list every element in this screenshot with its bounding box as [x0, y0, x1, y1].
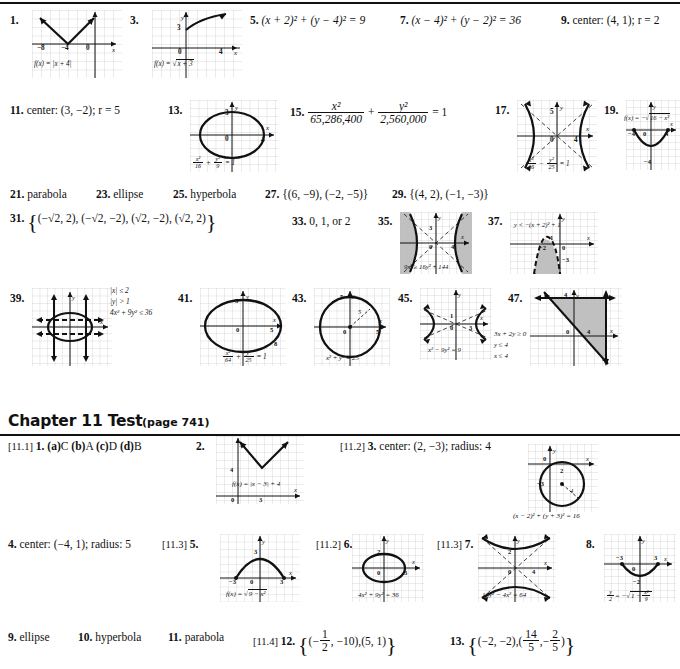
graph-45-tick-origin: 0 [450, 324, 453, 331]
pair-2: (5, 1) [361, 635, 386, 647]
minus-sign: − [312, 635, 319, 647]
item-number: 4. [8, 538, 17, 550]
section-ref: [11.3] [162, 539, 187, 550]
test-graph-6: y x 2 0 3 4x² + 9y² = 36 [352, 534, 424, 602]
test-graph-7-tick-y: 2 [508, 548, 511, 555]
denominator: 9 [642, 596, 650, 602]
graph-47-condition-1: 3x + 2y ≥ 0 [494, 330, 526, 338]
graph-1-equation: f(x) = |x + 4| [34, 60, 72, 68]
graph-35-inequality: 9x² ≥ 16y² + 144 [404, 263, 448, 270]
svg-text:y: y [437, 214, 441, 221]
svg-text:x: x [460, 233, 464, 240]
answer-item-37-number: 37. [488, 215, 502, 227]
graph-43-tick-origin: 0 [343, 328, 346, 335]
answer-item-23: 23. ellipse [96, 188, 143, 200]
answer-item-41-number: 41. [178, 292, 192, 304]
denominator: 5 [523, 641, 539, 653]
fraction-x2-9: x²9 [642, 589, 650, 603]
svg-text:x: x [585, 455, 589, 462]
answer-text: (x − 4)² + (y − 2)² = 36 [412, 14, 521, 26]
test-graph-8-tick-x2: 3 [654, 554, 657, 561]
graph-41-equation: x²64 + y²25 = 1 [222, 350, 267, 364]
numerator: y² [547, 157, 557, 164]
denominator: 16 [193, 163, 203, 169]
graph-43-tick-x: 5 [376, 328, 379, 335]
test-graph-7-tick-x: 4 [532, 568, 535, 575]
part-c-value: D [109, 440, 117, 452]
svg-text:x: x [479, 314, 483, 321]
solution-pair-3: (√2, −2), [131, 212, 172, 224]
part-c-label: (c) [96, 440, 109, 452]
graph-13-tick-y: 3 [225, 109, 229, 117]
item-number: 37. [488, 215, 502, 227]
graph-1-tick-x1: −8 [37, 44, 45, 52]
answer-item-9: 9. center: (4, 1); r = 2 [561, 14, 659, 26]
open-brace: { [298, 633, 309, 657]
answer-item-27: 27. {(6, −9), (−2, −5)} [265, 188, 368, 200]
svg-text:y: y [641, 537, 645, 544]
denominator: 5 [550, 641, 560, 653]
item-number: 21. [10, 188, 24, 200]
item-number: 47. [508, 292, 522, 304]
rhs: = 1 [256, 353, 266, 361]
answer-item-47-number: 47. [508, 292, 522, 304]
denominator: 2 [607, 596, 614, 602]
item-number: 12. [281, 635, 295, 647]
answer-text: center: (−4, 1); radius: 5 [20, 538, 132, 550]
graph-47-tick-y: 4 [564, 291, 567, 298]
graph-41-tick-y: 5 [235, 297, 238, 304]
numerator: x² [526, 157, 536, 164]
graph-43-radius-label: 5 [358, 308, 361, 315]
graph-35-tick-x: 4 [451, 243, 454, 250]
test-graph-6-tick-x: 3 [404, 569, 407, 576]
item-number: 25. [173, 188, 187, 200]
svg-text:y: y [552, 447, 556, 454]
graph-47-condition-2: y ≤ 4 [494, 341, 508, 349]
item-number: 23. [96, 188, 110, 200]
graph-41: y x 5 0 5 8 x²64 + y²25 = 1 [200, 288, 286, 366]
item-number: 31. [10, 212, 24, 224]
answer-item-33: 33. 0, 1, or 2 [292, 215, 350, 227]
svg-text:x: x [378, 317, 382, 324]
svg-text:y: y [71, 294, 75, 301]
test-graph-5-equation-prefix: f(x) = [226, 590, 244, 598]
fraction-x2-64: x²64 [223, 350, 233, 364]
fraction-x2-16: x²16 [193, 156, 203, 170]
svg-text:x: x [609, 327, 613, 334]
test-graph-3-equation: (x − 2)² + (y + 3)² = 16 [513, 512, 580, 520]
numerator: y [607, 589, 614, 596]
fraction-x2-16: x²16 [526, 157, 536, 171]
test-graph-8-tick-x1: −3 [616, 554, 623, 561]
answer-text: parabola [185, 631, 225, 643]
svg-text:x: x [411, 558, 415, 565]
graph-19: y x f(x) = −√16 − x² −4 0 4 −4 [626, 100, 680, 170]
test-graph-6-equation: 4x² + 9y² = 36 [358, 591, 399, 599]
graph-3: y x 3 0 4 f(x) = √x + 3 [152, 10, 242, 78]
answer-item-1-number: 1. [10, 14, 19, 26]
item-number: 2. [196, 440, 205, 452]
graph-47-tick-origin: 0 [566, 328, 569, 335]
test-graph-7-equation: 16y² − 4x² = 64 [482, 591, 526, 599]
graph-37-tick-y1: 1 [550, 234, 553, 241]
numerator: y² [214, 156, 223, 163]
graph-17-equation: x²16 − y²25 = 1 [525, 157, 570, 171]
item-number: 9. [8, 631, 17, 643]
numerator: 2 [550, 628, 560, 641]
answer-text: {(4, 2), (−1, −3)} [409, 188, 489, 200]
svg-text:x: x [586, 234, 590, 241]
item-number: 3. [130, 14, 139, 26]
test-answer-1: [11.1] 1. (a)C (b)A (c)D (d)B [8, 440, 142, 452]
solution-pair-4: (√2, 2) [175, 212, 206, 224]
item-number: 1. [10, 14, 19, 26]
answer-item-7: 7. (x − 4)² + (y − 2)² = 36 [400, 14, 521, 26]
item-number: 10. [78, 631, 92, 643]
answer-item-43-number: 43. [292, 292, 306, 304]
graph-41-tick-x2: 8 [274, 340, 277, 347]
answer-text: 0, 1, or 2 [309, 215, 350, 227]
graph-19-radicand: 16 − x² [649, 113, 670, 121]
chapter-test-divider [0, 434, 680, 436]
test-graph-7-tick-origin: 0 [508, 568, 511, 575]
rhs: = 1 [432, 106, 447, 118]
svg-text:y: y [351, 292, 355, 299]
item-number: 19. [604, 104, 618, 116]
